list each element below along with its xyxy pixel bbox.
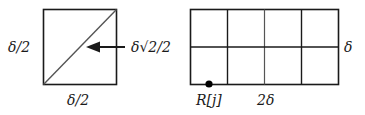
- diagram-canvas: δ/2 δ/2 δ√2/2 δ 2δ R[j]: [0, 0, 365, 115]
- point-label: R[j]: [195, 92, 222, 108]
- square-bottom-label: δ/2: [67, 92, 89, 108]
- arrow-left-icon: [86, 42, 125, 53]
- right-grid-figure: δ 2δ R[j]: [191, 10, 353, 109]
- grid-right-label: δ: [344, 39, 352, 55]
- grid-bottom-label: 2δ: [256, 92, 274, 108]
- diagonal-label: δ√2/2: [131, 39, 171, 55]
- square-side-label: δ/2: [8, 39, 30, 55]
- left-square-figure: δ/2 δ/2 δ√2/2: [8, 10, 171, 109]
- point-marker: [205, 80, 212, 87]
